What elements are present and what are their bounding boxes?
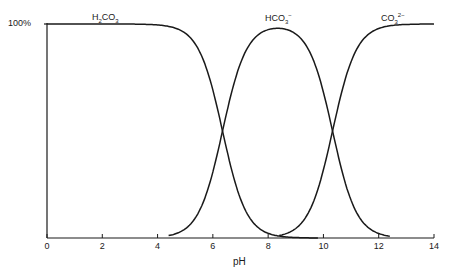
curve-h2co3 xyxy=(47,24,318,238)
x-tick-label: 14 xyxy=(429,241,439,251)
axes xyxy=(44,23,434,238)
curves xyxy=(47,24,434,238)
speciation-chart xyxy=(0,0,460,275)
x-tick-label: 8 xyxy=(266,241,271,251)
legend-co3: CO32− xyxy=(381,12,405,25)
curve-co3 xyxy=(279,24,434,236)
x-tick-label: 4 xyxy=(155,241,160,251)
curve-hco3 xyxy=(169,28,390,236)
x-tick-label: 0 xyxy=(44,241,49,251)
x-axis-label: pH xyxy=(233,256,246,267)
x-tick-label: 10 xyxy=(318,241,328,251)
x-tick-label: 12 xyxy=(374,241,384,251)
x-tick-label: 6 xyxy=(210,241,215,251)
legend-hco3: HCO3− xyxy=(265,12,292,25)
x-tick-label: 2 xyxy=(100,241,105,251)
y-label-100: 100% xyxy=(8,18,31,28)
legend-h2co3: H2CO3 xyxy=(92,12,119,24)
